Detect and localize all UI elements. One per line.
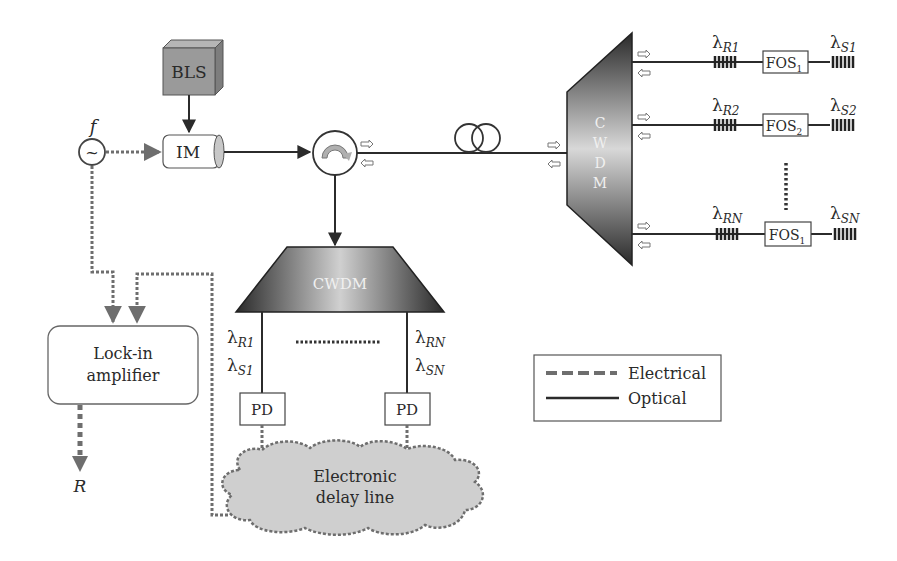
cwdm-letter: M (593, 175, 607, 191)
fiber-coil-icon (455, 124, 500, 152)
demux-right-ref-label: λRN (415, 327, 446, 350)
demux-left-ref-label: λR1 (227, 327, 254, 350)
legend: Electrical Optical (534, 355, 721, 421)
legend-electrical-label: Electrical (628, 364, 706, 383)
frequency-label: f (88, 116, 100, 137)
rf-oscillator: ~ f (79, 116, 105, 165)
pd-label: PD (251, 401, 273, 419)
lockin-label-1: Lock-in (93, 344, 152, 363)
bls-label: BLS (171, 62, 206, 82)
electronic-delay-line: Electronic delay line (222, 440, 483, 534)
delay-line-label-1: Electronic (313, 467, 396, 486)
ref-wavelength-label: λR1 (712, 32, 739, 55)
lockin-label-2: amplifier (87, 366, 160, 385)
diagram-canvas: BLS IM ~ f C W D M (0, 0, 897, 561)
optical-circulator (313, 131, 357, 175)
demux-right-sig-label: λSN (415, 355, 445, 378)
output-r-label: R (73, 476, 87, 496)
intensity-modulator: IM (163, 135, 224, 168)
pd-label: PD (396, 401, 418, 419)
sensor-wavelength-label: λSN (830, 203, 860, 226)
cwdm-demux-bottom: CWDM (236, 247, 444, 312)
bls-source: BLS (163, 40, 223, 95)
sensor-branch-n: FOS1 λRN λSN (632, 203, 860, 249)
ref-wavelength-label: λR2 (712, 95, 739, 118)
sensor-wavelength-label: λS2 (830, 95, 857, 118)
cwdm-demux-right: C W D M (567, 33, 632, 265)
sensor-branch-1: FOS1 λR1 λS1 (632, 32, 857, 77)
cwdm-letter: D (594, 155, 605, 171)
ref-wavelength-label: λRN (712, 203, 743, 226)
sensor-wavelength-label: λS1 (830, 32, 857, 55)
delay-line-label-2: delay line (316, 488, 395, 507)
sensor-branch-2: FOS2 λR2 λS2 (632, 95, 857, 140)
demux-left-sig-label: λS1 (227, 355, 254, 378)
fbg-sensor-grating-icon (833, 119, 853, 131)
lock-in-amplifier: Lock-in amplifier (48, 326, 198, 404)
direction-arrows-cwdm-in (548, 141, 560, 168)
legend-optical-label: Optical (628, 389, 687, 408)
output-arrow-icon (72, 456, 88, 472)
osc-to-lockin-reference (92, 166, 113, 322)
cwdm-letter: W (593, 135, 608, 151)
photodetector-right: PD (385, 393, 430, 425)
fbg-sensor-grating-icon (835, 228, 855, 240)
im-label: IM (176, 142, 200, 162)
fbg-sensor-grating-icon (833, 56, 853, 68)
cwdm-bottom-label: CWDM (313, 275, 367, 293)
cwdm-letter: C (595, 115, 606, 131)
photodetector-left: PD (240, 393, 285, 425)
tilde-icon: ~ (85, 143, 98, 162)
